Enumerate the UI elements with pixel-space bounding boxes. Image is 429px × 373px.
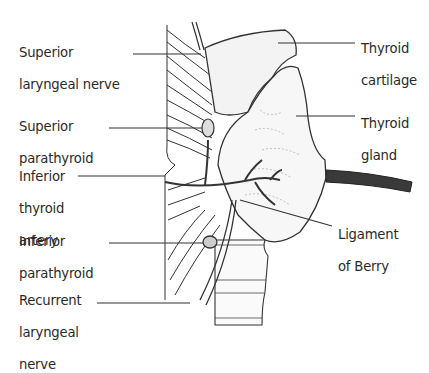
label-line: gland	[361, 148, 409, 164]
label-line: Ligament	[338, 227, 398, 243]
label-line: laryngeal nerve	[19, 77, 120, 93]
label-line: Superior	[19, 45, 120, 61]
label-thyroid-cartilage: Thyroid cartilage	[361, 25, 417, 105]
label-line: Inferior	[19, 234, 93, 250]
label-ligament-of-berry: Ligament of Berry	[338, 211, 398, 291]
label-line: Superior	[19, 119, 93, 135]
label-line: thyroid	[19, 201, 65, 217]
label-line: Recurrent	[19, 293, 81, 309]
label-line: Inferior	[19, 169, 65, 185]
label-superior-laryngeal-nerve: Superior laryngeal nerve	[19, 29, 120, 109]
trachea	[215, 240, 268, 325]
label-line: laryngeal	[19, 325, 81, 341]
label-line: cartilage	[361, 73, 417, 89]
label-line: nerve	[19, 357, 81, 373]
label-line: of Berry	[338, 259, 398, 275]
label-thyroid-gland: Thyroid gland	[361, 100, 409, 180]
superior-parathyroid-shape	[202, 119, 214, 137]
inferior-parathyroid-shape	[203, 236, 217, 248]
label-line: Thyroid	[361, 41, 417, 57]
label-line: Thyroid	[361, 116, 409, 132]
label-recurrent-laryngeal-nerve: Recurrent laryngeal nerve	[19, 277, 81, 373]
